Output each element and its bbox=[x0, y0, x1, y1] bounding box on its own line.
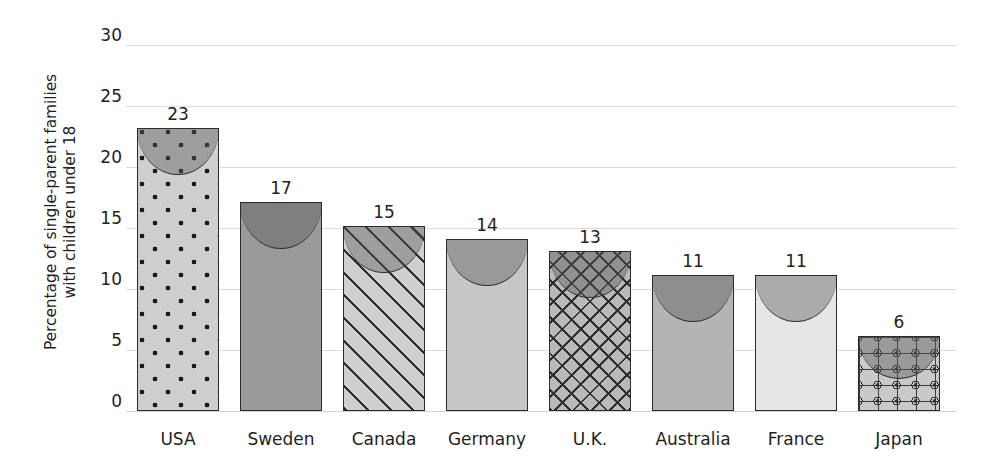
gridline-25 bbox=[126, 106, 956, 107]
y-tick-label-30: 30 bbox=[62, 25, 122, 45]
bar-australia[interactable] bbox=[652, 275, 734, 411]
bar-sweden[interactable] bbox=[240, 202, 322, 411]
bar-value-sweden: 17 bbox=[240, 178, 322, 198]
bar-value-uk: 13 bbox=[549, 227, 631, 247]
y-tick-label-5: 5 bbox=[62, 330, 122, 350]
bar-uk[interactable] bbox=[549, 251, 631, 411]
bar-japan[interactable] bbox=[858, 336, 940, 411]
x-tick-label-australia: Australia bbox=[652, 429, 734, 449]
bar-chart: Percentage of single-parent families wit… bbox=[0, 0, 981, 473]
bar-value-germany: 14 bbox=[446, 215, 528, 235]
gridline-0 bbox=[126, 411, 956, 412]
y-tick-label-0: 0 bbox=[62, 391, 122, 411]
x-tick-label-france: France bbox=[755, 429, 837, 449]
bar-germany[interactable] bbox=[446, 239, 528, 411]
y-tick-label-15: 15 bbox=[62, 208, 122, 228]
x-tick-label-canada: Canada bbox=[343, 429, 425, 449]
gridline-20 bbox=[126, 167, 956, 168]
bar-value-japan: 6 bbox=[858, 312, 940, 332]
x-tick-label-usa: USA bbox=[137, 429, 219, 449]
bar-usa[interactable] bbox=[137, 128, 219, 411]
y-tick-label-10: 10 bbox=[62, 269, 122, 289]
bar-value-canada: 15 bbox=[343, 202, 425, 222]
y-tick-label-20: 20 bbox=[62, 147, 122, 167]
bar-value-australia: 11 bbox=[652, 251, 734, 271]
bar-value-france: 11 bbox=[755, 251, 837, 271]
x-tick-label-sweden: Sweden bbox=[240, 429, 322, 449]
bar-canada[interactable] bbox=[343, 226, 425, 411]
gridline-30 bbox=[126, 45, 956, 46]
x-tick-label-japan: Japan bbox=[858, 429, 940, 449]
x-tick-label-germany: Germany bbox=[446, 429, 528, 449]
x-tick-label-uk: U.K. bbox=[549, 429, 631, 449]
bar-france[interactable] bbox=[755, 275, 837, 411]
bar-value-usa: 23 bbox=[137, 104, 219, 124]
y-tick-label-25: 25 bbox=[62, 86, 122, 106]
